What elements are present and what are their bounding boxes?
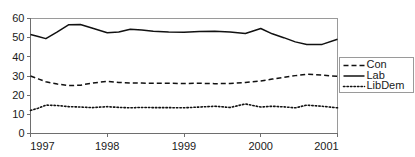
legend-label-libdem: LibDem [367, 79, 405, 91]
y-tick-label: 30 [12, 70, 24, 82]
x-tick-label: 1999 [172, 140, 196, 152]
x-tick-label: 2000 [249, 140, 273, 152]
y-tick-label: 0 [18, 127, 24, 139]
y-tick-label: 50 [12, 31, 24, 43]
x-tick-label: 1997 [30, 140, 54, 152]
chart-legend: ConLabLibDem [340, 58, 414, 93]
y-tick-label: 10 [12, 108, 24, 120]
x-tick-label: 1998 [95, 140, 119, 152]
chart-canvas: 0102030405060 19971998199920002001 ConLa… [0, 0, 415, 157]
line-chart: 0102030405060 19971998199920002001 ConLa… [0, 0, 415, 157]
y-tick-label: 60 [12, 12, 24, 24]
y-tick-label: 20 [12, 89, 24, 101]
y-tick-label: 40 [12, 51, 24, 63]
x-tick-label: 2001 [314, 140, 338, 152]
